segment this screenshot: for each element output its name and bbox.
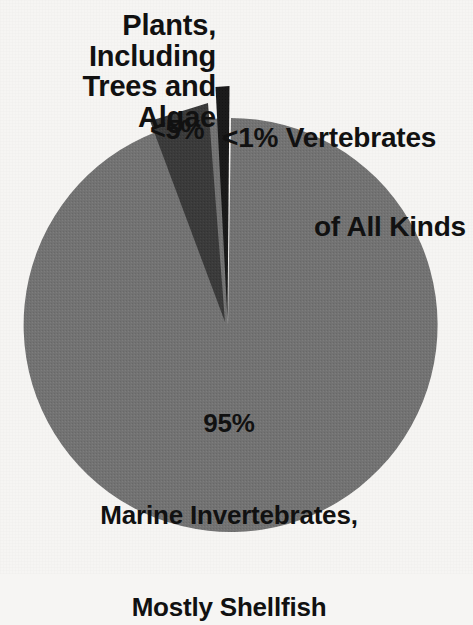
- label-main-percent: 95%: [54, 408, 404, 439]
- label-marine-invertebrates: 95% Marine Invertebrates, Mostly Shellfi…: [54, 347, 404, 625]
- label-plants-percent: <5%: [150, 116, 204, 145]
- label-vertebrates-line2: of All Kinds: [222, 212, 470, 242]
- label-main-line2: Marine Invertebrates,: [54, 500, 404, 531]
- label-vertebrates-line1: <1% Vertebrates: [222, 123, 470, 153]
- label-vertebrates: <1% Vertebrates of All Kinds: [222, 64, 470, 301]
- label-main-line3: Mostly Shellfish: [54, 592, 404, 623]
